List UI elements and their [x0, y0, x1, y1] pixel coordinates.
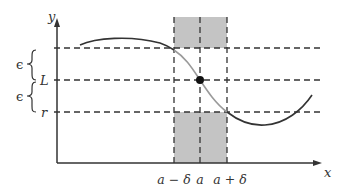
- y-axis-label: y: [47, 9, 56, 24]
- a-label: a: [196, 172, 203, 187]
- a-minus-delta-label: a − δ: [157, 172, 190, 187]
- r-label: r: [41, 105, 48, 120]
- x-axis-arrow-icon: [313, 160, 322, 166]
- a-plus-delta-label: a + δ: [213, 172, 246, 187]
- limit-point: [196, 76, 204, 84]
- epsilon-delta-diagram: y x L r ϵ ϵ a − δ a a + δ: [0, 0, 343, 194]
- function-curve-right: [227, 95, 312, 125]
- L-label: L: [39, 73, 49, 88]
- upper-epsilon-label: ϵ: [16, 57, 23, 72]
- horizontal-dashed-lines: [54, 48, 321, 112]
- lower-epsilon-brace-icon: [27, 82, 36, 112]
- lower-epsilon-label: ϵ: [16, 89, 23, 104]
- x-axis-label: x: [324, 165, 332, 180]
- upper-epsilon-brace-icon: [27, 50, 36, 80]
